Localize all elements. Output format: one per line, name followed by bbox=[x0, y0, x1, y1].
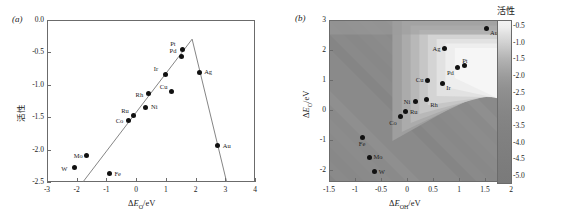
data-point-Mo bbox=[367, 155, 372, 160]
panel-b-x-tick bbox=[355, 178, 356, 182]
point-label-Ni: Ni bbox=[151, 103, 158, 110]
point-label-Cu: Cu bbox=[160, 83, 168, 90]
point-label-W: W bbox=[379, 168, 385, 175]
data-point-Pt bbox=[462, 63, 467, 68]
panel-b-x-tick bbox=[459, 178, 460, 182]
point-label-Rh: Rh bbox=[430, 101, 438, 108]
panel-b-plot-area bbox=[329, 20, 511, 182]
point-label-Pt: Pt bbox=[170, 40, 175, 47]
data-point-Co bbox=[398, 114, 403, 119]
point-label-Ir: Ir bbox=[446, 84, 450, 91]
panel-b-y-tick bbox=[329, 20, 333, 21]
panel-b-y-tick-label: 3 bbox=[309, 15, 326, 24]
data-point-Ag bbox=[442, 46, 447, 51]
panel-a-x-tick bbox=[196, 178, 197, 182]
panel-b-x-tick bbox=[433, 178, 434, 182]
panel-b: (b) 3210-1-2 -1.5-1-0.500.511.52 WMoFeCo… bbox=[281, 0, 562, 222]
panel-a-y-tick-label: -0.5 bbox=[20, 47, 44, 56]
data-point-Ag bbox=[197, 70, 202, 75]
point-label-Fe: Fe bbox=[359, 140, 366, 147]
panel-a-x-tick-label: 3 bbox=[215, 185, 235, 194]
panel-b-x-tick-label: 1 bbox=[447, 185, 471, 194]
point-label-Pd: Pd bbox=[447, 69, 454, 76]
panel-b-x-tick-label: -1 bbox=[343, 185, 367, 194]
panel-a-x-axis-title: ΔEO/eV bbox=[128, 198, 155, 210]
colorbar-tick-label: -3.0 bbox=[513, 104, 525, 113]
colorbar-tick-label: -0.5 bbox=[513, 21, 525, 30]
panel-a-y-tick bbox=[47, 20, 51, 21]
panel-a-x-tick bbox=[47, 178, 48, 182]
panel-a-y-tick bbox=[47, 85, 51, 86]
panel-b-y-tick bbox=[329, 110, 333, 111]
colorbar-tick-label: -2.0 bbox=[513, 71, 525, 80]
point-label-Mo: Mo bbox=[374, 153, 383, 160]
panel-a: (a) 0.0-0.5-1.0-1.5-2.0-2.5 -3-2-101234 … bbox=[0, 0, 281, 222]
panel-b-y-tick-label: 2 bbox=[309, 45, 326, 54]
panel-a-y-axis-title: 活性 bbox=[14, 104, 26, 122]
point-label-Cu: Cu bbox=[416, 76, 424, 83]
ascending-branch bbox=[82, 39, 192, 182]
panel-a-x-tick-label: 0 bbox=[126, 185, 146, 194]
panel-b-y-tick bbox=[329, 140, 333, 141]
panel-a-y-tick bbox=[47, 182, 51, 183]
data-point-Rh bbox=[424, 97, 429, 102]
panel-a-x-tick bbox=[225, 178, 226, 182]
point-label-Ru: Ru bbox=[410, 108, 418, 115]
panel-b-y-axis-title: ΔEO/eV bbox=[301, 91, 313, 118]
panel-a-x-tick-label: 1 bbox=[156, 185, 176, 194]
colorbar-tick-label: -1.5 bbox=[513, 54, 525, 63]
figure-root: (a) 0.0-0.5-1.0-1.5-2.0-2.5 -3-2-101234 … bbox=[0, 0, 562, 222]
panel-a-y-tick bbox=[47, 117, 51, 118]
panel-b-y-tick bbox=[329, 170, 333, 171]
panel-b-tag: (b) bbox=[295, 13, 306, 23]
point-label-Pd: Pd bbox=[170, 47, 177, 54]
panel-a-x-tick-label: -2 bbox=[67, 185, 87, 194]
panel-a-y-tick-label: -2.0 bbox=[20, 145, 44, 154]
colorbar bbox=[497, 20, 512, 184]
panel-a-y-tick bbox=[47, 52, 51, 53]
data-point-Pd bbox=[179, 54, 184, 59]
point-label-Ru: Ru bbox=[121, 107, 129, 114]
colorbar-tick-label: -4.5 bbox=[513, 154, 525, 163]
point-label-Fe: Fe bbox=[114, 170, 121, 177]
panel-a-y-tick-label: 0.0 bbox=[20, 15, 44, 24]
descending-branch bbox=[192, 39, 227, 182]
panel-a-x-tick-label: 4 bbox=[245, 185, 265, 194]
data-point-Au bbox=[484, 26, 489, 31]
point-label-Co: Co bbox=[116, 117, 124, 124]
panel-b-activity-heatmap bbox=[330, 21, 511, 182]
point-label-Rh: Rh bbox=[136, 91, 144, 98]
panel-b-x-tick-label: -0.5 bbox=[369, 185, 393, 194]
panel-a-y-tick-label: -1.0 bbox=[20, 80, 44, 89]
point-label-Pt: Pt bbox=[462, 57, 467, 64]
panel-a-x-tick bbox=[136, 178, 137, 182]
panel-a-x-tick bbox=[106, 178, 107, 182]
panel-b-x-tick bbox=[407, 178, 408, 182]
panel-a-x-tick-label: -1 bbox=[96, 185, 116, 194]
panel-b-x-tick-label: 0 bbox=[395, 185, 419, 194]
colorbar-tick-label: -2.5 bbox=[513, 88, 525, 97]
data-point-Fe bbox=[107, 171, 112, 176]
point-label-Ag: Ag bbox=[432, 45, 440, 52]
colorbar-tick-label: -5.0 bbox=[513, 171, 525, 180]
panel-a-y-tick bbox=[47, 150, 51, 151]
data-point-Cu bbox=[425, 78, 430, 83]
panel-b-y-tick bbox=[329, 80, 333, 81]
point-label-Ir: Ir bbox=[154, 65, 158, 72]
panel-b-x-tick bbox=[329, 178, 330, 182]
panel-b-x-axis-title: ΔEOH/eV bbox=[389, 198, 421, 210]
panel-a-x-tick-label: -3 bbox=[37, 185, 57, 194]
panel-b-x-tick-label: 2 bbox=[499, 185, 523, 194]
panel-b-x-tick-label: 0.5 bbox=[421, 185, 445, 194]
panel-a-x-tick bbox=[77, 178, 78, 182]
colorbar-tick-label: -1.0 bbox=[513, 38, 525, 47]
panel-a-x-tick bbox=[255, 178, 256, 182]
panel-b-x-tick bbox=[381, 178, 382, 182]
point-label-Mo: Mo bbox=[74, 152, 83, 159]
panel-b-y-tick-label: 1 bbox=[309, 75, 326, 84]
colorbar-tick-label: -4.0 bbox=[513, 138, 525, 147]
colorbar-tick-label: -3.5 bbox=[513, 121, 525, 130]
point-label-Au: Au bbox=[223, 142, 231, 149]
panel-b-y-tick-label: -2 bbox=[309, 165, 326, 174]
panel-b-x-tick-label: 1.5 bbox=[473, 185, 497, 194]
